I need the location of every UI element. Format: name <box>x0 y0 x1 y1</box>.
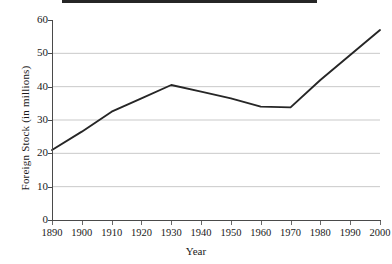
x-tick-mark <box>231 221 232 225</box>
data-series-group <box>52 20 380 220</box>
x-tick-mark <box>141 221 142 225</box>
y-axis-title: Foreign Stock (in millions) <box>19 33 31 223</box>
x-tick-mark <box>261 221 262 225</box>
y-tick-mark <box>48 87 52 88</box>
x-tick-mark <box>291 221 292 225</box>
y-tick-mark <box>48 153 52 154</box>
title-underline-rule <box>62 0 317 3</box>
x-axis-line <box>52 220 381 221</box>
x-tick-mark <box>320 221 321 225</box>
y-axis-line <box>52 20 53 221</box>
x-tick-mark <box>380 221 381 225</box>
x-tick-mark <box>350 221 351 225</box>
y-tick-mark <box>48 120 52 121</box>
plot-area <box>52 20 380 220</box>
y-tick-mark <box>48 187 52 188</box>
y-tick-mark <box>48 53 52 54</box>
y-tick-mark <box>48 20 52 21</box>
x-tick-mark <box>112 221 113 225</box>
series-line-foreign-stock <box>52 30 380 150</box>
x-axis-title: Year <box>0 245 392 257</box>
x-tick-mark <box>171 221 172 225</box>
x-tick-mark <box>201 221 202 225</box>
y-tick-mark <box>48 220 52 221</box>
y-axis-title-wrap: Foreign Stock (in millions) <box>10 20 24 220</box>
x-tick-mark <box>82 221 83 225</box>
x-tick-label: 2000 <box>360 227 392 239</box>
x-tick-mark <box>52 221 53 225</box>
chart-figure: 0102030405060 18901900191019201930194019… <box>0 0 392 264</box>
